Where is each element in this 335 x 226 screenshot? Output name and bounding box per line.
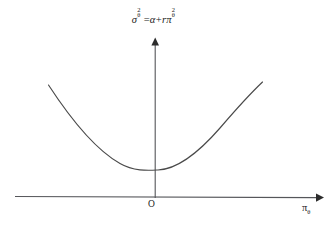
x-axis-label: πθ <box>302 203 310 214</box>
origin-label: O <box>148 200 155 210</box>
equation-lhs-indices: 2θ <box>137 12 144 23</box>
x-axis-line <box>15 197 316 198</box>
y-axis-arrow-icon <box>151 38 159 46</box>
x-axis-label-subscript: θ <box>307 208 310 215</box>
equation-title: σ2θ=α+rπ2θ <box>0 12 310 25</box>
x-axis-arrow-icon <box>316 193 324 201</box>
equation-term-pi-indices: 2θ <box>172 12 179 23</box>
figure-canvas: σ2θ=α+rπ2θ O πθ <box>0 0 335 226</box>
plot-svg <box>0 0 335 226</box>
